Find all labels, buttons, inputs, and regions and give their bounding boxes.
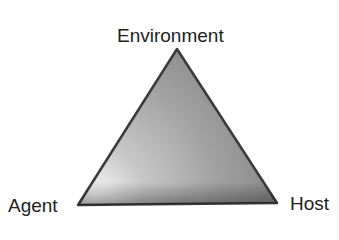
triangle-shading <box>78 49 277 205</box>
vertex-label-environment: Environment <box>117 26 224 45</box>
vertex-label-agent: Agent <box>8 196 58 215</box>
vertex-label-host: Host <box>290 194 329 213</box>
